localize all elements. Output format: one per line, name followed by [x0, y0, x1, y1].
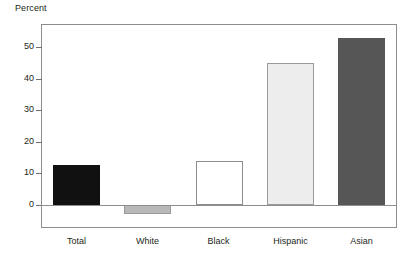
y-axis-tick-label: 20: [4, 137, 34, 146]
bar-black: [196, 161, 243, 205]
y-axis-tick-label: 40: [4, 74, 34, 83]
y-axis-tick-label: 50: [4, 42, 34, 51]
y-axis-tick-label: 0: [4, 200, 34, 209]
y-axis-tick: [36, 79, 42, 80]
y-axis-tick-label: 30: [4, 105, 34, 114]
y-axis-tick-labels: 01020304050: [0, 0, 34, 266]
x-axis-label-total: Total: [41, 236, 112, 246]
x-axis-label-white: White: [112, 236, 183, 246]
bar-chart-figure: Percent 01020304050 TotalWhiteBlackHispa…: [0, 0, 417, 266]
bar-total: [53, 165, 100, 205]
x-axis-label-hispanic: Hispanic: [255, 236, 326, 246]
bar-hispanic: [267, 63, 314, 205]
zero-baseline: [41, 205, 397, 206]
y-axis-tick: [36, 47, 42, 48]
y-axis-tick-label: 10: [4, 168, 34, 177]
y-axis-tick: [36, 142, 42, 143]
y-axis-tick: [36, 173, 42, 174]
x-axis-label-black: Black: [183, 236, 254, 246]
y-axis-tick: [36, 110, 42, 111]
x-axis-label-asian: Asian: [326, 236, 397, 246]
bar-asian: [338, 38, 385, 205]
bar-white: [124, 205, 171, 214]
